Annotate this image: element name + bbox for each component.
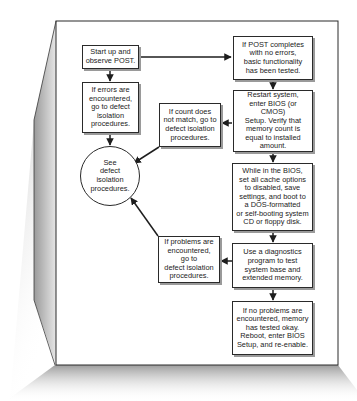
node-no-problems-text: If no problems are encountered, memory h… [237,307,309,350]
flowchart-page: Start up and observe POST. If errors are… [0,0,357,401]
node-count-mismatch-text: If count does not match, go to defect is… [164,108,217,142]
node-start-text: Start up and observe POST. [86,48,136,65]
node-problems: If problems are encountered, go to defec… [158,236,220,283]
node-start: Start up and observe POST. [82,45,139,69]
node-restart-text: Restart system, enter BIOS (or CMOS) Set… [236,91,310,151]
node-see-defect-text: See defect isolation procedures. [90,159,129,193]
node-restart: Restart system, enter BIOS (or CMOS) Set… [233,90,313,152]
node-no-problems: If no problems are encountered, memory h… [232,301,313,355]
node-bios-cache: While in the BIOS, set all cache options… [232,163,313,231]
node-diagnostics-text: Use a diagnostics program to test system… [242,248,303,282]
node-post-ok-text: If POST completes with no errors, basic … [242,41,304,75]
page-bottom-shadow [10,365,357,401]
node-see-defect: See defect isolation procedures. [80,146,140,206]
node-count-mismatch: If count does not match, go to defect is… [159,103,221,147]
node-errors: If errors are encountered, go to defect … [82,82,139,133]
node-post-ok: If POST completes with no errors, basic … [233,36,313,80]
node-bios-cache-text: While in the BIOS, set all cache options… [236,167,308,227]
node-problems-text: If problems are encountered, go to defec… [164,238,213,281]
node-errors-text: If errors are encountered, go to defect … [89,86,132,129]
node-diagnostics: Use a diagnostics program to test system… [232,243,313,288]
